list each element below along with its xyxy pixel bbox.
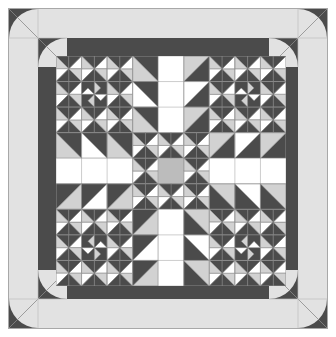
patch [260, 158, 286, 184]
patch [107, 158, 133, 184]
patch [158, 82, 184, 108]
quilt-diagram [0, 0, 336, 337]
patch [82, 158, 108, 184]
patch [158, 209, 184, 235]
patch [158, 235, 184, 261]
quilt-preview-canvas [0, 0, 336, 337]
patch [158, 260, 184, 286]
patch [209, 158, 235, 184]
patch [158, 107, 184, 133]
patch [56, 158, 82, 184]
patch [158, 56, 184, 82]
pieced-field [56, 56, 286, 286]
patch [235, 158, 261, 184]
patch [158, 158, 184, 184]
